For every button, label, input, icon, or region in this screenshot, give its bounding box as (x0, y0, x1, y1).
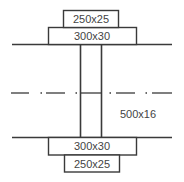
web-label: 500x16 (120, 108, 156, 120)
bottom-plate-outer: 250x25 (65, 155, 120, 172)
top-plate-inner: 300x30 (49, 28, 137, 45)
section-diagram: 300x30 250x25 300x30 250x25 500x16 (0, 0, 184, 182)
top-plate-outer-label: 250x25 (73, 13, 109, 25)
bottom-plate-outer-label: 250x25 (74, 158, 110, 170)
top-plate-inner-label: 300x30 (74, 30, 110, 42)
bottom-plate-inner: 300x30 (49, 138, 137, 156)
bottom-plate-inner-label: 300x30 (74, 140, 110, 152)
top-plate-outer: 250x25 (64, 11, 119, 28)
